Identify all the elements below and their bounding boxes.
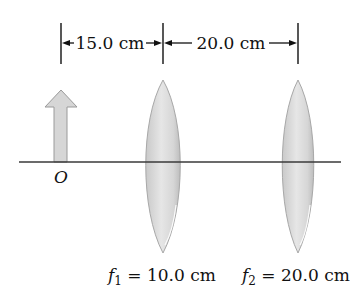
object-arrow-icon <box>45 90 77 162</box>
converging-lens-1 <box>146 80 181 253</box>
dimension-lines: 15.0 cm 20.0 cm <box>61 23 298 64</box>
object-label: O <box>54 167 68 187</box>
arrowhead-right-icon <box>289 40 297 46</box>
arrowhead-right-icon <box>154 40 162 46</box>
distance-label-2: 20.0 cm <box>197 33 266 53</box>
distance-label-1: 15.0 cm <box>76 33 145 53</box>
lens-system-diagram: 15.0 cm 20.0 cm O f1 = 10.0 cm f2 = 20.0… <box>0 0 362 295</box>
lens-1-focal-label: f1 = 10.0 cm <box>106 265 216 288</box>
converging-lens-2 <box>282 80 314 253</box>
lens-2-focal-label: f2 = 20.0 cm <box>240 265 350 288</box>
